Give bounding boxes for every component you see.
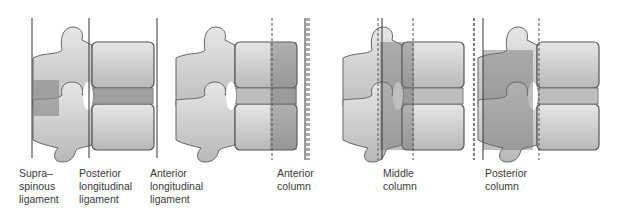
panel-ligaments	[32, 18, 157, 162]
panel-posterior-column	[474, 18, 599, 162]
label-posterior-longitudinal-ligament: Posterior longitudinal ligament	[79, 167, 132, 206]
label-posterior-column: Posterior column	[485, 167, 527, 193]
panel-middle-column	[307, 18, 474, 162]
label-supraspinous-ligament: Supra– spinous ligament	[19, 167, 59, 206]
label-anterior-column: Anterior column	[277, 167, 314, 193]
panel-anterior-column	[176, 18, 309, 162]
label-anterior-longitudinal-ligament: Anterior longitudinal ligament	[150, 167, 203, 206]
label-middle-column: Middle column	[383, 167, 417, 193]
